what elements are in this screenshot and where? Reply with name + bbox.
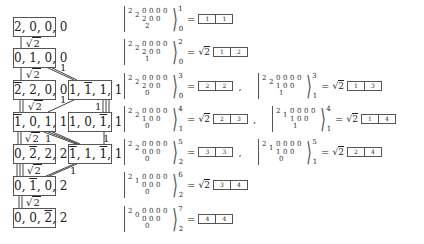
node-text: , 1, <box>77 147 100 161</box>
gt-pattern: 2200001001 <box>262 73 306 99</box>
equation-3: 2200002000⟩30=22, <box>124 72 242 100</box>
weight-node-2: 0, 1, 0, 0 <box>13 48 56 68</box>
gt-entry: 0 <box>145 122 149 130</box>
equals-sign: = <box>187 147 195 158</box>
weight-node-7: 0, 2, 2, 2 <box>13 144 56 164</box>
node-text: 0, <box>14 147 29 161</box>
weight-node-10: 0, 0, 2, 2 <box>13 208 56 228</box>
gt-entry: 0 <box>156 48 160 56</box>
edge-label-4-6: 1 <box>95 102 101 112</box>
gt-entry: 0 <box>142 107 146 115</box>
ket: 2100000000⟩62 <box>124 171 183 199</box>
edge-label-7-9: √2 <box>27 166 42 176</box>
tableau-cell: 4 <box>230 181 247 189</box>
tableau-cell: 4 <box>199 215 215 223</box>
gt-entry: 0 <box>290 74 294 82</box>
ket-superscript: 4 <box>326 105 330 113</box>
equals-sign: = <box>187 180 195 191</box>
weight-node-1: 2, 0, 0, 0 <box>13 17 56 37</box>
gt-entry: 0 <box>156 74 160 82</box>
gt-entry: 0 <box>149 215 153 223</box>
tableau-cell: 3 <box>364 82 381 90</box>
gt-entry: 0 <box>156 173 160 181</box>
ket-angle-icon: ⟩ <box>306 139 312 165</box>
tableau-cell: 1 <box>199 15 215 23</box>
tableau-cell: 4 <box>378 115 395 123</box>
gt-entry: 0 <box>156 115 160 123</box>
gt-entry: 0 <box>279 155 283 163</box>
tableau-cell: 3 <box>214 181 230 189</box>
node-text: 1 <box>29 179 37 193</box>
ket-superscript: 3 <box>178 72 182 80</box>
gt-entry: 0 <box>142 207 146 215</box>
gt-entry: 0 <box>149 7 153 15</box>
gt-entry: 0 <box>149 148 153 156</box>
coefficient: √2 <box>332 147 343 157</box>
gt-entry: 2 <box>135 44 139 52</box>
gt-entry: 0 <box>149 207 153 215</box>
young-tableau: 12 <box>213 47 248 57</box>
gt-entry: 1 <box>135 177 139 185</box>
ket-angle-icon: ⟩ <box>172 172 178 198</box>
ket-subscript: 0 <box>179 58 183 66</box>
node-text: 1, <box>69 83 84 97</box>
ket: 2200001001⟩31 <box>258 72 317 100</box>
tableau-cell: 1 <box>214 48 230 56</box>
gt-entry: 0 <box>156 215 160 223</box>
gt-entry: 0 <box>156 107 160 115</box>
gt-entry: 0 <box>156 82 160 90</box>
gt-entry: 0 <box>163 140 167 148</box>
tableau-cell: 3 <box>199 148 215 156</box>
gt-entry: 0 <box>142 173 146 181</box>
node-text: , 2 <box>52 211 67 225</box>
equals-sign: = <box>321 147 329 158</box>
ket: 2200002002⟩10 <box>124 5 183 33</box>
gt-entry: 0 <box>142 140 146 148</box>
tableau-cell: 1 <box>362 115 378 123</box>
ket-bar-icon <box>124 6 125 32</box>
gt-entry: 0 <box>304 107 308 115</box>
ket-subscript: 1 <box>313 158 317 166</box>
gt-entry: 2 <box>135 78 139 86</box>
gt-entry: 0 <box>156 148 160 156</box>
gt-pattern: 2100001001 <box>276 106 320 132</box>
ket-superscript: 7 <box>178 205 182 213</box>
ket: 2200000000⟩52 <box>124 138 183 166</box>
ket-angle-icon: ⟩ <box>172 139 178 165</box>
gt-pattern: 2200000000 <box>128 139 172 165</box>
gt-entry: 0 <box>283 140 287 148</box>
gt-entry: 2 <box>128 40 132 48</box>
tableau-cell: 2 <box>214 115 230 123</box>
ket-bar-icon <box>124 39 125 65</box>
edge-label-2-3: √2 <box>26 70 41 80</box>
gt-entry: 0 <box>283 74 287 82</box>
gt-entry: 0 <box>290 107 294 115</box>
ket: 2100001000⟩51 <box>258 138 317 166</box>
edge-label-1-2: √2 <box>26 39 41 49</box>
node-text: 0, 0, <box>14 211 45 225</box>
gt-entry: 0 <box>142 74 146 82</box>
gt-entry: 0 <box>276 140 280 148</box>
edge-label-9-10: √2 <box>26 198 41 208</box>
gt-entry: 2 <box>135 111 139 119</box>
gt-entry: 0 <box>135 211 139 219</box>
node-text: , 2, 2 <box>37 147 68 161</box>
node-text: 2 <box>29 147 37 161</box>
tableau-cell: 2 <box>199 82 215 90</box>
gt-entry: 2 <box>145 22 149 30</box>
young-tableau: 23 <box>213 114 248 124</box>
ket-superscript: 5 <box>312 138 316 146</box>
gt-entry: 1 <box>283 111 287 119</box>
ket-subscript: 1 <box>327 125 331 133</box>
gt-entry: 0 <box>163 107 167 115</box>
tableau-cell: 2 <box>348 148 364 156</box>
gt-entry: 0 <box>163 173 167 181</box>
young-tableau: 14 <box>361 114 396 124</box>
node-text: 1, 0, <box>69 115 100 129</box>
coefficient: √2 <box>198 47 209 57</box>
ket-subscript: 2 <box>179 225 183 233</box>
node-text: 1 <box>14 115 22 129</box>
ket-superscript: 2 <box>178 38 182 46</box>
edge-label-3-5: √2 <box>28 102 43 112</box>
gt-entry: 0 <box>290 82 294 90</box>
